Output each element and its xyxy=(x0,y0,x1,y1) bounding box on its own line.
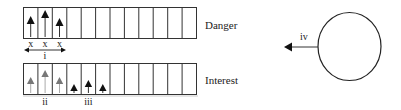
arrow-up-icon xyxy=(27,77,34,93)
arrow-left-icon xyxy=(284,43,318,52)
arrow-up-icon xyxy=(27,16,35,37)
danger-grid xyxy=(24,8,197,39)
span-label: i xyxy=(44,50,47,61)
interest-grid xyxy=(24,64,197,95)
group-label-ii: ii xyxy=(42,96,48,107)
cell-mark: x xyxy=(57,38,62,49)
arrow-up-icon xyxy=(56,18,64,37)
danger-arrows xyxy=(27,10,64,37)
arrow-up-icon xyxy=(41,10,49,37)
arrow-up-icon xyxy=(85,80,92,93)
circle-shape xyxy=(318,13,381,81)
circle-arrow-label: iv xyxy=(300,31,308,42)
cell-mark: x xyxy=(28,38,33,49)
row-label-interest: Interest xyxy=(205,74,238,86)
row-label-danger: Danger xyxy=(205,19,238,31)
group-label-iii: iii xyxy=(84,96,93,107)
arrow-up-icon xyxy=(99,84,106,93)
diagram-canvas: x x x i Danger xyxy=(0,0,401,110)
arrow-up-icon xyxy=(70,84,77,93)
arrow-up-icon xyxy=(41,70,48,93)
cell-mark: x xyxy=(43,38,48,49)
arrow-up-icon xyxy=(56,77,63,93)
